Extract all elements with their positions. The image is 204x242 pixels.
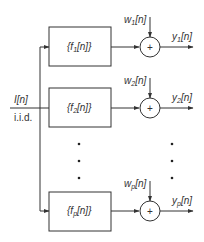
- noise-label-2: w2[n]: [124, 75, 146, 87]
- noise-label-p: wp[n]: [124, 178, 146, 191]
- output-label-2: y2[n]: [171, 92, 192, 104]
- filter-label-1: {f1[n]}: [67, 41, 92, 53]
- ellipsis-dots: [78, 143, 174, 180]
- input-sublabel: i.i.d.: [14, 112, 32, 123]
- noise-label-1: w1[n]: [124, 14, 146, 26]
- output-label-1: y1[n]: [171, 31, 192, 43]
- input-signal: I[n] i.i.d.: [10, 94, 40, 123]
- branch-2: {f2[n]} + w2[n] y2[n]: [40, 75, 193, 127]
- filter-label-p: {fp[n]}: [67, 205, 92, 218]
- block-diagram: I[n] i.i.d. {f1[n]} + w1[n] y1[n] {f2[n]…: [0, 0, 204, 242]
- input-label: I[n]: [14, 94, 28, 105]
- plus-icon: +: [147, 206, 153, 217]
- plus-icon: +: [147, 42, 153, 53]
- output-label-p: yp[n]: [171, 195, 192, 208]
- branch-p: {fp[n]} + wp[n] yp[n]: [40, 178, 193, 231]
- branch-1: {f1[n]} + w1[n] y1[n]: [40, 14, 193, 66]
- filter-label-2: {f2[n]}: [67, 102, 92, 114]
- plus-icon: +: [147, 103, 153, 114]
